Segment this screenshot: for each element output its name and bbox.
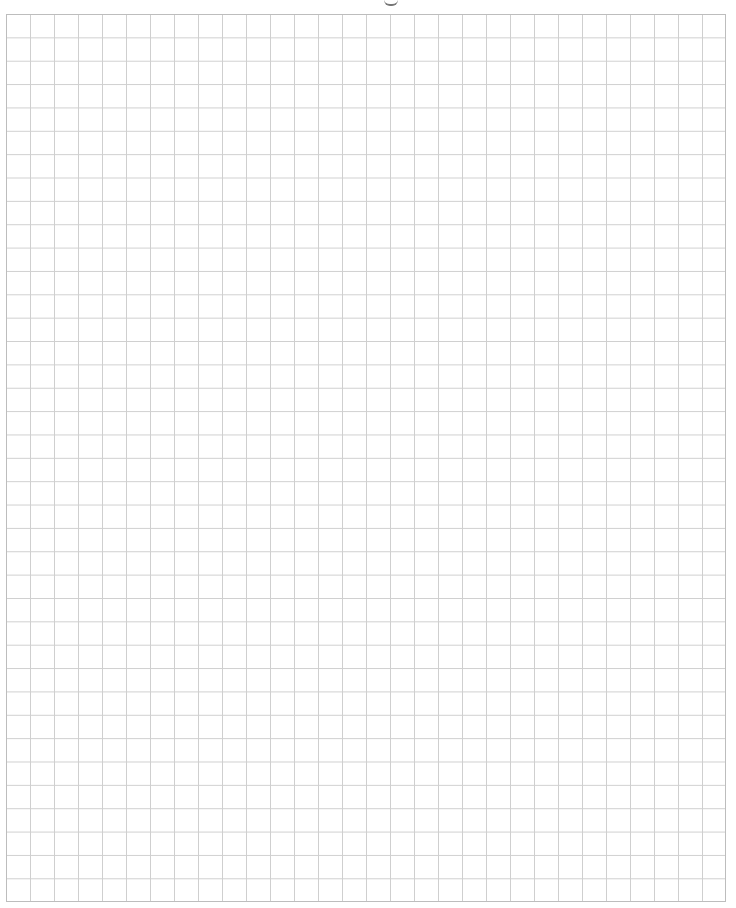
graph-paper-grid [6,14,726,902]
cropped-header-glyph [384,0,398,6]
